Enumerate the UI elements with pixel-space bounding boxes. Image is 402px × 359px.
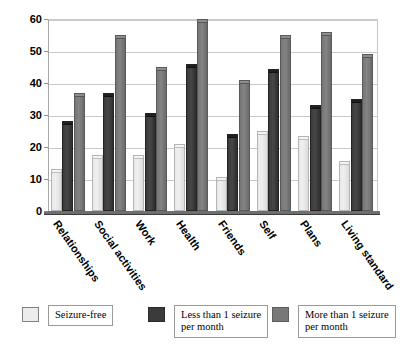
bar — [280, 35, 291, 211]
bar-top-cap — [340, 162, 349, 165]
bar — [133, 155, 144, 211]
bar — [298, 136, 309, 211]
bar-top-cap — [240, 81, 249, 84]
y-tick-label: 20 — [30, 142, 42, 152]
legend-label-line: Less than 1 seizure — [181, 309, 261, 321]
legend-color-swatch — [272, 307, 289, 322]
bar — [310, 105, 321, 211]
bar-top-cap — [311, 106, 320, 109]
bar-top-cap — [269, 70, 278, 73]
bar-top-cap — [134, 156, 143, 159]
bar-top-cap — [75, 94, 84, 97]
y-axis: 0102030405060 — [18, 14, 42, 212]
bar-top-cap — [198, 20, 207, 23]
bar — [145, 113, 156, 211]
legend-item[interactable]: Less than 1 seizureper month — [148, 305, 268, 338]
bar-top-cap — [175, 145, 184, 148]
bar — [257, 131, 268, 211]
bar-top-cap — [157, 68, 166, 71]
bar-top-cap — [258, 132, 267, 135]
bar-group — [92, 19, 126, 211]
x-axis-label: Plans — [298, 218, 325, 249]
bar — [216, 177, 227, 211]
bar — [51, 169, 62, 211]
legend-label-line: per month — [305, 321, 389, 333]
x-axis-label: Living standard — [340, 218, 397, 292]
bar-top-cap — [116, 36, 125, 39]
bar-group — [298, 19, 332, 211]
y-tick-mark — [44, 51, 48, 52]
bar-top-cap — [363, 55, 372, 58]
bar — [268, 69, 279, 211]
bar — [321, 32, 332, 211]
bar-group — [133, 19, 167, 211]
bar — [227, 134, 238, 211]
bar — [197, 19, 208, 211]
x-axis-label: Work — [133, 218, 158, 247]
x-axis-category-labels: RelationshipsSocial activitiesWorkHealth… — [0, 214, 402, 300]
legend-label-line: per month — [181, 321, 261, 333]
bar — [351, 99, 362, 211]
legend-item[interactable]: Seizure-free — [22, 305, 113, 326]
bar-group — [257, 19, 291, 211]
y-tick-mark — [44, 179, 48, 180]
bar — [62, 121, 73, 211]
bar-top-cap — [299, 137, 308, 140]
bar — [239, 80, 250, 211]
bar-top-cap — [63, 122, 72, 125]
legend-color-swatch — [22, 307, 39, 322]
bar — [92, 155, 103, 211]
y-tick-label: 50 — [30, 46, 42, 56]
y-tick-mark — [44, 19, 48, 20]
legend-label: More than 1 seizureper month — [298, 305, 396, 338]
y-tick-label: 40 — [30, 78, 42, 88]
x-axis-label: Health — [175, 218, 204, 252]
bar-top-cap — [187, 65, 196, 68]
y-tick-mark — [44, 83, 48, 84]
bar-top-cap — [93, 156, 102, 159]
y-tick-mark — [44, 147, 48, 148]
legend-label-line: More than 1 seizure — [305, 309, 389, 321]
bar-top-cap — [104, 94, 113, 97]
bar — [339, 161, 350, 211]
bar — [362, 54, 373, 211]
bar — [103, 93, 114, 211]
bar — [74, 93, 85, 211]
legend-label: Seizure-free — [48, 305, 113, 326]
bar-group — [339, 19, 373, 211]
x-axis-label: Friends — [216, 218, 249, 257]
legend-color-swatch — [148, 307, 165, 322]
bar-chart: 0102030405060 RelationshipsSocial activi… — [0, 0, 402, 359]
legend-label-line: Seizure-free — [55, 309, 106, 321]
bar-top-cap — [146, 114, 155, 117]
bar-top-cap — [352, 100, 361, 103]
bar-top-cap — [322, 33, 331, 36]
bar — [174, 144, 185, 211]
bars-layer — [48, 19, 378, 211]
bar-group — [216, 19, 250, 211]
bar-top-cap — [281, 36, 290, 39]
bar — [115, 35, 126, 211]
y-tick-label: 30 — [30, 110, 42, 120]
legend-label: Less than 1 seizureper month — [174, 305, 268, 338]
y-tick-label: 60 — [30, 14, 42, 24]
bar-group — [174, 19, 208, 211]
y-tick-label: 10 — [30, 174, 42, 184]
bar — [186, 64, 197, 211]
bar-top-cap — [228, 135, 237, 138]
legend-item[interactable]: More than 1 seizureper month — [272, 305, 396, 338]
bar-group — [51, 19, 85, 211]
bar-top-cap — [217, 178, 226, 181]
y-tick-mark — [44, 115, 48, 116]
y-tick-mark — [44, 211, 48, 212]
bar-top-cap — [52, 170, 61, 173]
chart-legend: Seizure-freeLess than 1 seizureper month… — [0, 305, 402, 355]
bar — [156, 67, 167, 211]
x-axis-label: Self — [257, 218, 278, 241]
